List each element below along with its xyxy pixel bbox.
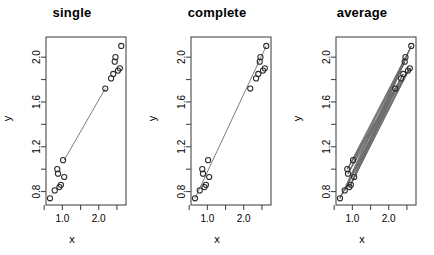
figure-canvas: single 0.81.21.62.01.02.0 y x complete 0… [0, 0, 434, 255]
y-axis-tick-label: 1.6 [177, 95, 188, 109]
y-axis-label-complete: y [146, 104, 159, 134]
scatter-plot-average: 0.81.21.62.01.02.0 [290, 0, 434, 255]
y-axis-tick-label: 1.6 [322, 95, 333, 109]
x-axis-tick-label: 2.0 [92, 213, 106, 224]
x-axis-tick-label: 1.0 [345, 213, 359, 224]
y-axis-label-single: y [1, 104, 14, 134]
scatter-plot-complete: 0.81.21.62.01.02.0 [145, 0, 289, 255]
plot-panel-average: average 0.81.21.62.01.02.0 y x [290, 0, 434, 255]
y-axis-tick-label: 0.8 [177, 184, 188, 198]
y-axis-tick-label: 1.2 [32, 139, 43, 153]
scatter-plot-single: 0.81.21.62.01.02.0 [0, 0, 144, 255]
x-axis-label-single: x [0, 233, 144, 246]
y-axis-tick-label: 1.2 [322, 139, 333, 153]
x-axis-tick-label: 1.0 [55, 213, 69, 224]
plot-panel-single: single 0.81.21.62.01.02.0 y x [0, 0, 144, 255]
x-axis-label-average: x [290, 233, 434, 246]
x-axis-tick-label: 1.0 [200, 213, 214, 224]
y-axis-tick-label: 2.0 [32, 50, 43, 64]
y-axis-tick-label: 1.6 [32, 95, 43, 109]
x-axis-label-complete: x [145, 233, 289, 246]
y-axis-tick-label: 2.0 [177, 50, 188, 64]
y-axis-tick-label: 0.8 [32, 184, 43, 198]
plot-panel-complete: complete 0.81.21.62.01.02.0 y x [145, 0, 289, 255]
plot-box-frame [46, 37, 126, 205]
y-axis-tick-label: 1.2 [177, 139, 188, 153]
y-axis-tick-label: 0.8 [322, 184, 333, 198]
x-axis-tick-label: 2.0 [382, 213, 396, 224]
y-axis-tick-label: 2.0 [322, 50, 333, 64]
y-axis-label-average: y [291, 104, 304, 134]
x-axis-tick-label: 2.0 [237, 213, 251, 224]
